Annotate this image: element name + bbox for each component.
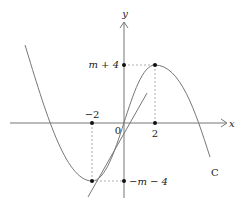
curve-name-label: C: [211, 167, 219, 178]
max-point: [153, 63, 157, 67]
x-2-point: [153, 121, 157, 125]
x-axis-label: x: [229, 118, 235, 129]
x-neg2-label: −2: [85, 109, 100, 120]
function-graph: y x 0 −2 2 m + 4 −m − 4 C: [0, 0, 239, 207]
y-axis-label: y: [121, 8, 128, 19]
y-max-label: m + 4: [88, 59, 119, 70]
y-max-point: [122, 63, 126, 67]
x-2-label: 2: [152, 128, 158, 139]
min-point: [90, 179, 94, 183]
y-min-point: [122, 179, 126, 183]
origin-label: 0: [115, 125, 121, 136]
y-min-label: −m − 4: [129, 176, 168, 187]
x-neg2-point: [90, 121, 94, 125]
